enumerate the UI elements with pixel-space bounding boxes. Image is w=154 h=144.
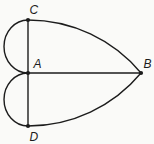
point-dot-D — [26, 124, 30, 128]
small-arc-AD — [4, 73, 28, 126]
point-dot-C — [26, 18, 30, 22]
point-dot-B — [139, 71, 143, 75]
small-arc-CA — [4, 20, 28, 73]
big-arc-DB — [28, 73, 141, 126]
figure-canvas: CABD — [0, 0, 154, 144]
point-dot-A — [26, 71, 30, 75]
segments — [28, 20, 141, 126]
big-arc-CB — [28, 20, 141, 73]
point-label-C: C — [30, 3, 39, 17]
geometry-figure: CABD — [0, 0, 154, 144]
point-label-D: D — [30, 130, 39, 144]
point-label-B: B — [144, 57, 152, 71]
point-label-A: A — [33, 57, 42, 71]
